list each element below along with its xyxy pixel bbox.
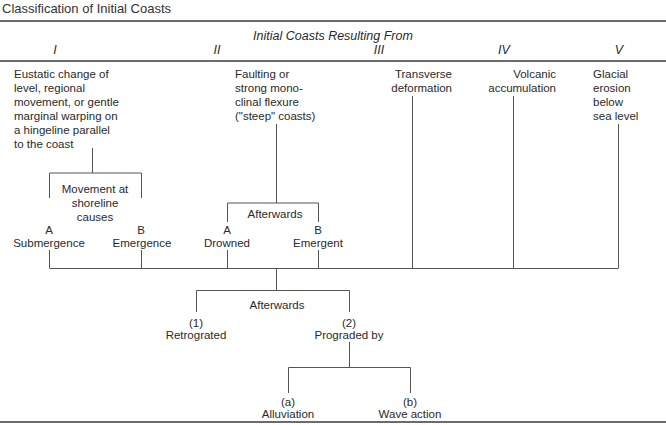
header-caption: Initial Coasts Resulting From (183, 29, 483, 43)
origin-V: Glacial erosion below sea level (593, 67, 638, 123)
branch-II-caption: Afterwards (235, 207, 315, 221)
column-header-IV: IV (489, 43, 519, 57)
prograded-label: Prograded by (304, 328, 394, 342)
branch-II-a-label: Drowned (192, 236, 262, 250)
afterwards-caption: Afterwards (240, 298, 314, 312)
branch-I-a-label: Submergence (4, 236, 94, 250)
column-header-III: III (364, 43, 394, 57)
branch-I-b-label: Emergence (102, 236, 182, 250)
column-header-II: II (202, 43, 232, 57)
branch-II-b-label: Emergent (283, 236, 353, 250)
branch-II-a-letter: A (217, 223, 237, 237)
branch-II-b-letter: B (308, 223, 328, 237)
origin-I: Eustatic change of level, regional movem… (14, 67, 119, 151)
retrograted-label: Retrograted (156, 328, 236, 342)
column-header-V: V (604, 43, 634, 57)
branch-I-b-letter: B (131, 223, 151, 237)
column-header-I: I (40, 43, 70, 57)
origin-III: Transverse deformation (374, 67, 452, 95)
alluviation-label: Alluviation (248, 407, 328, 421)
branch-I-a-letter: A (39, 223, 59, 237)
origin-II: Faulting or strong mono- clinal flexure … (235, 67, 315, 123)
wave-action-label: Wave action (365, 407, 455, 421)
branch-I-caption: Movement at shoreline causes (50, 182, 140, 224)
origin-IV: Volcanic accumulation (476, 67, 556, 95)
